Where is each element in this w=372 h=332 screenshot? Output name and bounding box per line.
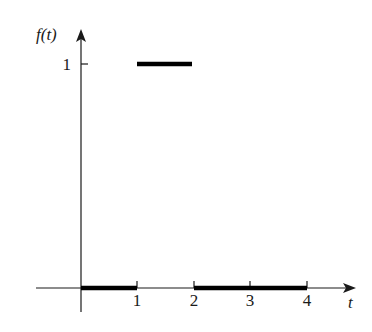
x-tick-label-1: 1	[133, 291, 142, 310]
x-tick-label-4: 4	[303, 291, 312, 310]
y-tick-label-1: 1	[63, 55, 72, 74]
function-segments	[81, 64, 307, 288]
step-function-chart: 1 2 3 4 1 t f(t)	[0, 0, 372, 332]
y-axis-label: f(t)	[36, 25, 57, 44]
x-tick-label-2: 2	[190, 291, 199, 310]
x-tick-label-3: 3	[246, 291, 255, 310]
x-axis-label: t	[348, 293, 354, 312]
axes	[36, 29, 356, 312]
